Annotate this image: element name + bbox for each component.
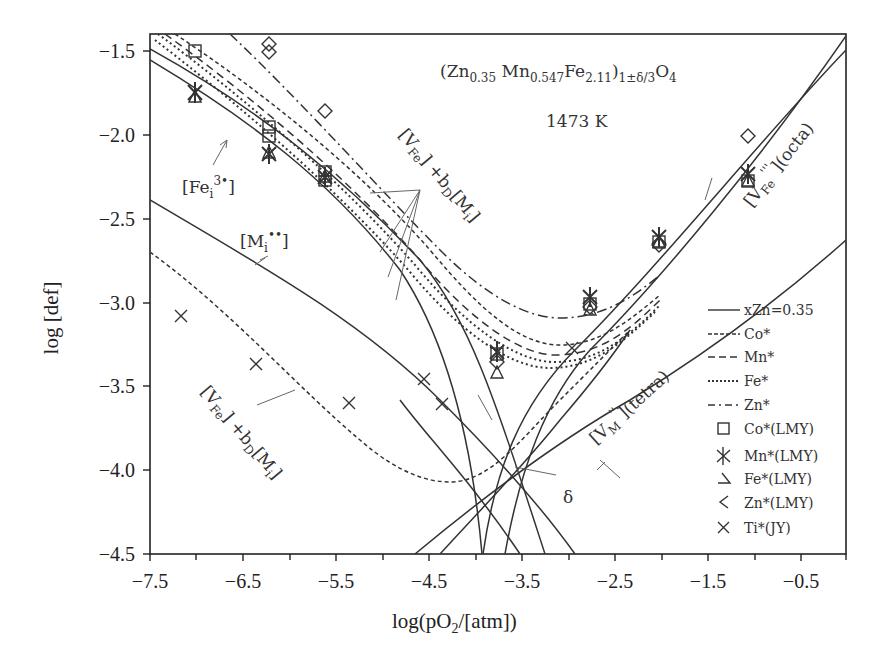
marker-zn xyxy=(262,37,755,369)
x-tick-label: −1.5 xyxy=(690,570,726,592)
x-tick-labels: −7.5 −6.5 −5.5 −4.5 −3.5 −2.5 −1.5 −0.5 xyxy=(132,570,819,592)
label-mi: [Mi••] xyxy=(240,228,289,255)
legend-label: Co* xyxy=(744,326,770,342)
curve-mi xyxy=(150,200,575,554)
temperature-label: 1473 K xyxy=(546,111,608,131)
label-fei: [Fei3•] xyxy=(182,174,235,201)
y-tick-label: −4.5 xyxy=(99,543,135,565)
label-delta: δ xyxy=(563,487,573,507)
x-tick-label: −4.5 xyxy=(411,570,447,592)
legend-label: xZn=0.35 xyxy=(744,302,814,318)
y-tick-label: −2.0 xyxy=(99,124,135,146)
x-tick-label: −7.5 xyxy=(132,570,168,592)
x-axis xyxy=(150,554,846,561)
legend-label: Zn*(LMY) xyxy=(744,495,814,511)
legend-label: Fe* xyxy=(744,373,768,389)
legend-label: Zn* xyxy=(744,397,770,413)
label-vfe-bd-lower: [VFe] +bD[Mi] xyxy=(195,382,287,485)
curve-ti xyxy=(150,252,630,482)
chart-title: (Zn0.35 Mn0.547Fe2.11)1±δ/3O4 xyxy=(440,61,677,85)
legend-label: Co*(LMY) xyxy=(744,421,814,437)
y-axis xyxy=(143,51,150,554)
legend-label: Fe*(LMY) xyxy=(744,471,812,487)
x-tick-label: −0.5 xyxy=(783,570,819,592)
curves xyxy=(150,34,846,554)
y-axis-label: log [def] xyxy=(39,282,63,355)
plot-frame xyxy=(150,34,846,554)
defect-chart: −1.5 −2.0 −2.5 −3.0 −3.5 −4.0 −4.5 −7.5 … xyxy=(0,0,892,667)
label-vfe-bd-upper: [VFe] +bD[Mi] xyxy=(393,125,485,228)
y-tick-label: −3.0 xyxy=(99,292,135,314)
x-tick-label: −3.5 xyxy=(504,570,540,592)
y-tick-label: −1.5 xyxy=(99,40,135,62)
y-tick-label: −2.5 xyxy=(99,208,135,230)
x-tick-label: −2.5 xyxy=(597,570,633,592)
markers xyxy=(175,37,755,410)
x-axis-label: log(pO2/[atm]) xyxy=(392,609,517,636)
y-tick-label: −3.5 xyxy=(99,375,135,397)
legend-label: Ti*(JY) xyxy=(744,520,791,536)
curve-total-left xyxy=(150,49,545,554)
legend-label: Mn* xyxy=(744,349,774,365)
legend-label: Mn*(LMY) xyxy=(744,448,818,464)
x-tick-label: −5.5 xyxy=(318,570,354,592)
x-tick-label: −6.5 xyxy=(225,570,261,592)
marker-ti xyxy=(175,310,578,410)
y-tick-labels: −1.5 −2.0 −2.5 −3.0 −3.5 −4.0 −4.5 xyxy=(99,40,135,565)
y-tick-label: −4.0 xyxy=(99,459,135,481)
